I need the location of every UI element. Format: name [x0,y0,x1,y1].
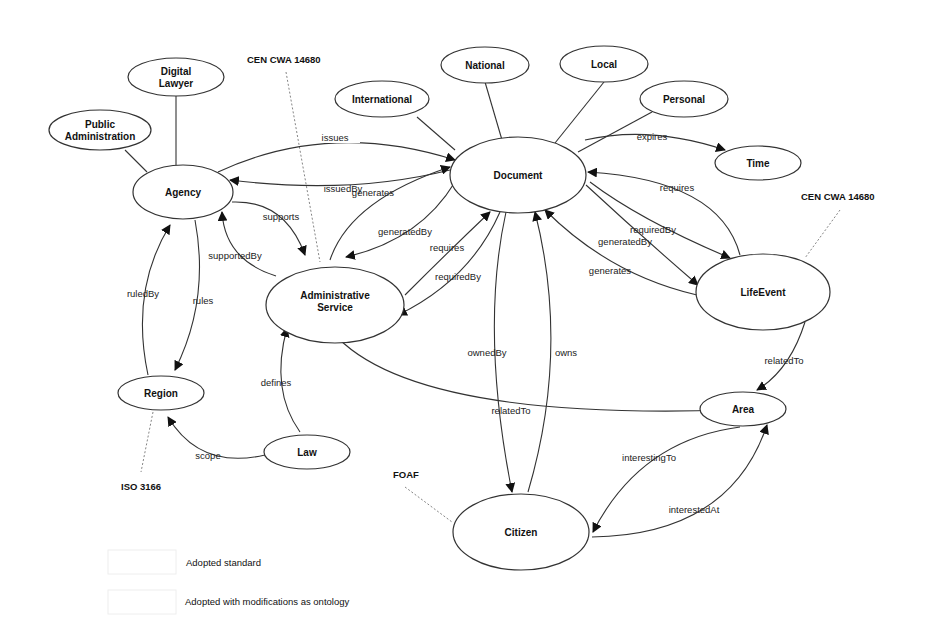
svg-text:Time: Time [746,158,770,169]
svg-text:Administration: Administration [65,131,136,142]
edge-label-requiredBy-as: requiredBy [435,271,481,282]
legend-adopted-standard: Adopted standard [186,557,261,568]
standard-cen-top: CEN CWA 14680 [247,54,321,65]
edge-label-generates-le: generates [589,265,632,276]
edge-label-owns: owns [555,347,577,358]
edge-label-defines: defines [261,377,292,388]
ontology-diagram: issues issuedBy generates supports suppo… [0,0,935,632]
svg-text:Local: Local [591,59,617,70]
svg-text:National: National [465,60,505,71]
edge-label-rules: rules [193,295,214,306]
svg-text:LifeEvent: LifeEvent [740,287,786,298]
node-area[interactable]: Area [700,392,786,426]
svg-text:Area: Area [732,404,755,415]
svg-text:Administrative: Administrative [300,290,370,301]
edge-label-interestedAt: interestedAt [669,504,720,515]
edge-label-relatedTo-le: relatedTo [764,355,803,366]
node-international[interactable]: International [335,81,429,117]
svg-text:Agency: Agency [165,187,202,198]
node-local[interactable]: Local [560,46,648,82]
edge-label-supportedBy: supportedBy [208,250,262,261]
svg-text:Law: Law [297,447,317,458]
edge-label-ruledBy: ruledBy [127,288,159,299]
svg-text:Region: Region [144,388,178,399]
edge-label-requiredBy-le: requiredBy [630,224,676,235]
node-lifeevent[interactable]: LifeEvent [696,254,830,330]
legend-swatch-modified [108,590,176,614]
edge-label-requires-le: requires [660,182,695,193]
node-public-administration[interactable]: Public Administration [49,110,151,150]
edge-label-relatedTo-as: relatedTo [491,405,530,416]
svg-text:Digital: Digital [161,66,192,77]
svg-text:Lawyer: Lawyer [159,78,194,89]
node-citizen[interactable]: Citizen [453,494,589,570]
legend-swatch-standard [108,550,176,574]
edge-label-generates-doc: generates [352,187,395,198]
node-law[interactable]: Law [264,435,350,469]
edge-label-ownedBy: ownedBy [467,347,506,358]
node-administrative-service[interactable]: Administrative Service [266,267,404,343]
svg-text:Personal: Personal [663,94,705,105]
svg-text:International: International [352,94,412,105]
node-national[interactable]: National [441,47,529,83]
svg-text:Citizen: Citizen [505,527,538,538]
standard-foaf: FOAF [393,469,419,480]
edge-label-scope: scope [195,450,220,461]
standard-cen-right: CEN CWA 14680 [801,191,875,202]
node-digital-lawyer[interactable]: Digital Lawyer [128,58,224,96]
edge-label-expires: expires [637,131,668,142]
edge-label-generatedBy-le: generatedBy [598,236,652,247]
edge-label-requires-as: requires [430,242,465,253]
node-region[interactable]: Region [118,376,204,410]
edge-label-issues: issues [322,132,349,143]
legend-adopted-modified: Adopted with modifications as ontology [185,596,349,607]
node-personal[interactable]: Personal [640,81,728,117]
standard-iso: ISO 3166 [121,481,161,492]
svg-text:Service: Service [317,302,353,313]
node-time[interactable]: Time [715,146,801,180]
legend: Adopted standard Adopted with modificati… [108,550,349,614]
edge-label-supports: supports [263,211,300,222]
edge-label-generatedBy-as: generatedBy [378,226,432,237]
edge-label-interestingTo: interestingTo [622,452,676,463]
svg-text:Document: Document [494,170,544,181]
svg-text:Public: Public [85,119,115,130]
node-document[interactable]: Document [450,137,586,213]
node-agency[interactable]: Agency [133,165,233,219]
